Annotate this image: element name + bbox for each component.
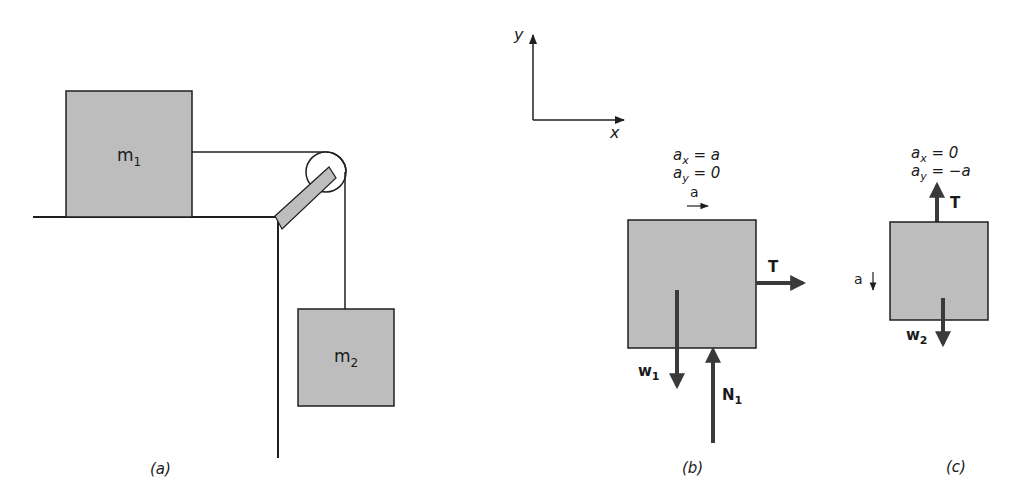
caption-c: (c) (946, 458, 966, 476)
b-accel-label: a (690, 184, 699, 200)
caption-a: (a) (150, 460, 171, 478)
y-axis-label: y (513, 25, 524, 44)
b-weight-label: w1 (638, 362, 660, 383)
c-weight-label: w2 (906, 326, 928, 347)
caption-b: (b) (682, 459, 703, 477)
b-ay-equation: ay = 0 (673, 164, 720, 185)
panel-b: ax = a ay = 0 a T w1 N1 (b) (628, 146, 803, 477)
b-normal-label: N1 (722, 386, 742, 407)
c-block (890, 222, 988, 320)
c-tension-label: T (950, 194, 961, 212)
b-tension-label: T (768, 258, 779, 276)
c-ay-equation: ay = −a (911, 162, 971, 183)
coordinate-axes: y x (513, 25, 624, 142)
b-block (628, 220, 756, 348)
panel-a: m1 m2 (a) (33, 91, 394, 478)
x-axis-label: x (609, 123, 620, 142)
diagram-canvas: m1 m2 (a) y x ax = a ay = 0 a (0, 0, 1013, 498)
panel-c: ax = 0 ay = −a T a w2 (c) (854, 144, 988, 476)
pulley-bracket (275, 167, 336, 229)
c-accel-label: a (854, 271, 863, 287)
